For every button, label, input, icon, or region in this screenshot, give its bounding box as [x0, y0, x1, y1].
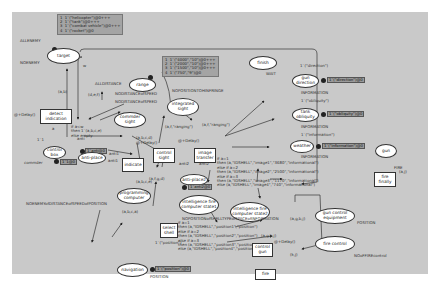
- label-information2: INFORMATION: [301, 125, 328, 129]
- label-position2: POSITION: [150, 275, 169, 279]
- marking-direction: 1`("direction")@0: [327, 77, 365, 83]
- label-information-arc: 1`("information"): [301, 133, 335, 137]
- marking-obliquity: 1`("obliquity")@0: [327, 111, 364, 117]
- label-delay1: @+Delay(): [14, 113, 35, 117]
- token-tank-obliquity: [321, 112, 326, 117]
- label-abca: (a,b,c,a): [122, 210, 138, 214]
- range-marking-box: 1 1`("4000","10")@0+++ 2 1`("2000","10")…: [162, 56, 219, 77]
- token-gun-direction: [321, 78, 326, 83]
- label-ab: (a,b): [58, 90, 67, 94]
- label-position: POSITION: [357, 221, 376, 225]
- label-w: w: [83, 64, 86, 68]
- label-nooffire: NOoFFIREcontrol: [354, 254, 387, 258]
- token-weather: [316, 144, 321, 149]
- label-afgd: (a,f,g,d): [149, 177, 164, 181]
- marking-information: 1`("information")@0: [322, 143, 365, 149]
- label-delay3: @+Delay(): [178, 139, 199, 143]
- place-ifc-state1[interactable]: intelligence fire computer state1: [179, 195, 219, 215]
- label-def: (d,e,f): [88, 93, 100, 97]
- label-afrang: (a,f,"ranging"): [165, 125, 193, 129]
- label-delay4: @+Delay(): [274, 240, 295, 244]
- label-anti2: anti2: [179, 162, 189, 166]
- transition-control-gun[interactable]: control gun: [252, 243, 273, 257]
- label-noenemyofdist: NOENEMYofDISTANCEofSPEEDofPOSITION: [26, 202, 107, 206]
- marking-control-box: 1`1@0: [60, 159, 77, 165]
- label-agbj: (a,g,b,j): [290, 217, 305, 221]
- place-navigation[interactable]: navigation: [117, 263, 148, 277]
- label-delay2: @+Delay(): [136, 141, 157, 145]
- label-anti1b: anti1: [108, 159, 118, 163]
- label-one: 1`1: [37, 138, 44, 142]
- token-control-box: [54, 159, 59, 164]
- label-allenemy: ALLENEMY: [20, 39, 41, 43]
- label-a: a: [52, 127, 54, 131]
- label-aj: (a,j): [399, 170, 407, 174]
- label-shell-guard: if a=1 then (a,"IDSHELL","position1","po…: [178, 221, 258, 252]
- transition-fire-finally[interactable]: fire finally: [374, 172, 396, 187]
- place-anti-place[interactable]: anti-place: [78, 152, 106, 164]
- place-integrated-sight[interactable]: integrated sight: [167, 98, 199, 116]
- place-commder-sight[interactable]: commder sight: [114, 112, 146, 128]
- token-anti2: [182, 185, 187, 190]
- label-kj: (k,j): [290, 253, 298, 257]
- place-weather[interactable]: weather: [290, 140, 314, 153]
- label-anti: anti: [77, 137, 84, 141]
- label-information1: INFORMATION: [301, 91, 328, 95]
- label-nodistanceofspeed2: NODISTANCEofSPEED: [115, 100, 157, 104]
- label-direction-arc: 1`("direction"): [300, 64, 328, 68]
- label-obliquity-arc: 1`("obliquity"): [301, 99, 329, 103]
- label-nopositiontohinfringe: NOPOSITIONTOHINFRINGE: [172, 89, 223, 93]
- label-anti2b: anti2: [199, 162, 209, 166]
- label-agbj2: (a,g,b,j): [261, 234, 276, 238]
- place-control-box[interactable]: control box: [43, 146, 66, 159]
- place-gun-direction[interactable]: gun direction: [292, 74, 319, 88]
- marking-position: 1`("position")@0: [155, 266, 191, 272]
- place-programming-computer[interactable]: programming computer: [117, 188, 151, 204]
- label-position-arc: 1`("position"): [155, 241, 181, 245]
- transition-fire[interactable]: fire: [255, 269, 276, 280]
- transition-indicate[interactable]: indicate: [122, 158, 144, 172]
- label-guard-detect: if a<w then 1`(a,b,c,e) else empty: [71, 125, 102, 138]
- label-anti1: anti1: [109, 152, 119, 156]
- transition-select-shell[interactable]: select shell: [160, 223, 178, 238]
- place-gun-control-equipment[interactable]: gun control equipment: [315, 208, 355, 224]
- label-noenemy: NOENEMY: [20, 61, 40, 65]
- marking-anti2: 1`anti2@0: [188, 184, 212, 190]
- place-finish[interactable]: finish: [249, 56, 277, 70]
- label-alldistance: ALLDISTANCE: [95, 82, 121, 86]
- place-target[interactable]: target: [47, 48, 80, 64]
- target-marking-box: 1 1`("helicopter")@0+++ 2 1`("tank")@0++…: [57, 14, 123, 35]
- petri-net-canvas: 1 1`("helicopter")@0+++ 2 1`("tank")@0++…: [12, 12, 428, 274]
- transition-control-sight[interactable]: control sight: [153, 148, 175, 163]
- label-commder: commder: [24, 161, 43, 165]
- transition-detect-indication[interactable]: detect indication: [40, 109, 72, 124]
- place-gun[interactable]: gun: [375, 144, 397, 158]
- place-tank-obliquity[interactable]: tank obliquity: [292, 108, 319, 122]
- label-wait: WAIT: [266, 72, 276, 76]
- place-fire-control[interactable]: fire control: [315, 236, 355, 252]
- label-nodistanceofspeed: NODISTANCEofSPEED: [115, 92, 157, 96]
- place-range[interactable]: range: [129, 78, 156, 92]
- label-image-guard: if a=1 then (a,"IDSHELL","image1","3680"…: [217, 157, 319, 188]
- label-afrang2: (a,f,"ranging"): [202, 123, 230, 127]
